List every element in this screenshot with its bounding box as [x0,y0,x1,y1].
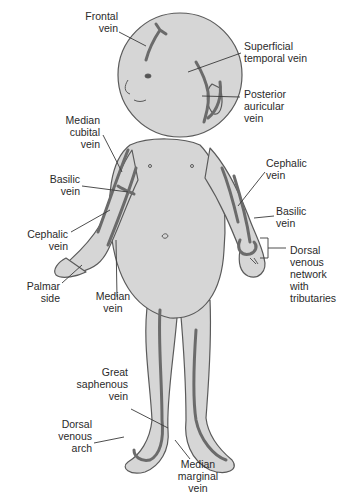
label-cephalic-vein-right: Cephalic vein [266,157,326,181]
label-median-cubital-vein: Median cubital vein [46,114,100,150]
label-great-saphenous-vein: Great saphenous vein [70,366,128,402]
label-superficial-temporal-vein: Superficial temporal vein [244,40,344,64]
label-basilic-vein-right: Basilic vein [276,205,326,229]
label-frontal-vein: Frontal vein [70,10,118,34]
label-basilic-vein-left: Basilic vein [40,173,80,197]
label-palmar-side: Palmar side [20,280,60,304]
label-median-vein: Median vein [88,290,138,314]
label-median-marginal-vein: Median marginal vein [170,458,226,494]
label-cephalic-vein-left: Cephalic vein [20,228,68,252]
label-dorsal-venous-network: Dorsal venous network with tributaries [290,244,350,304]
infant-veins-diagram: Frontal vein Superficial temporal vein P… [0,0,350,496]
label-posterior-auricular-vein: Posterior auricular vein [244,88,324,124]
label-dorsal-venous-arch: Dorsal venous arch [40,418,92,454]
